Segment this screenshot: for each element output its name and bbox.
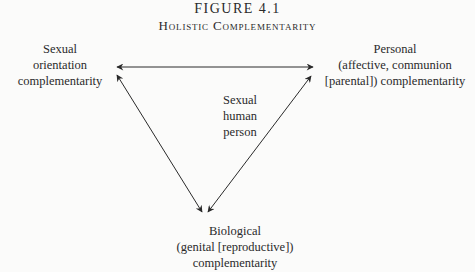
node-line: Personal bbox=[320, 41, 470, 57]
node-line: Sexual bbox=[200, 92, 280, 108]
node-line: [parental]) complementarity bbox=[320, 73, 470, 89]
node-line: orientation bbox=[10, 57, 110, 73]
arrow-left-bottom bbox=[117, 75, 202, 212]
node-line: person bbox=[200, 124, 280, 140]
node-biological: Biological (genital [reproductive]) comp… bbox=[155, 223, 315, 271]
node-line: Sexual bbox=[10, 41, 110, 57]
node-line: Biological bbox=[155, 223, 315, 239]
node-line: (genital [reproductive]) bbox=[155, 239, 315, 255]
node-line: (affective, communion bbox=[320, 57, 470, 73]
node-sexual-human-person: Sexual human person bbox=[200, 92, 280, 140]
node-line: complementarity bbox=[10, 73, 110, 89]
node-sexual-orientation: Sexual orientation complementarity bbox=[10, 41, 110, 89]
node-personal: Personal (affective, communion [parental… bbox=[320, 41, 470, 89]
node-line: complementarity bbox=[155, 255, 315, 271]
node-line: human bbox=[200, 108, 280, 124]
